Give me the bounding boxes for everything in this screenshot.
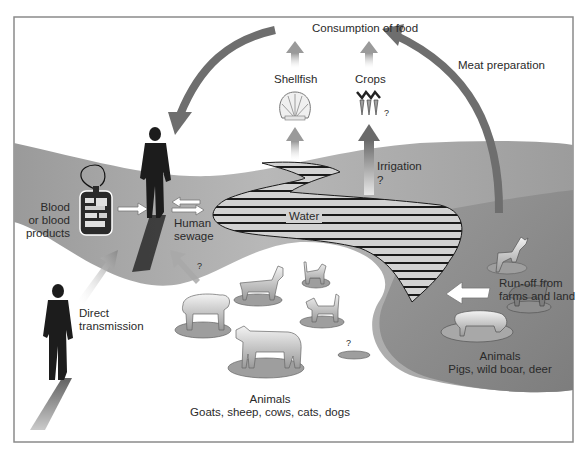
shellfish-label: Shellfish <box>274 73 317 86</box>
irrigation-label: Irrigation <box>377 160 422 173</box>
runoff-label-line2: farms and land <box>499 290 575 303</box>
crops-label: Crops <box>355 73 386 86</box>
animals-left-title: Animals <box>220 393 320 406</box>
irrigation-uncertain-mark: ? <box>377 174 383 187</box>
direct-transmission-line2: transmission <box>79 320 144 333</box>
shell-icon <box>280 92 311 120</box>
water-label: Water <box>286 210 322 223</box>
animals-left-members: Goats, sheep, cows, cats, dogs <box>190 406 350 419</box>
unknown-host-mark: ? <box>346 337 351 350</box>
animal-to-sewage-uncertain: ? <box>197 260 202 273</box>
crops-uncertain-mark: ? <box>384 107 389 120</box>
human-sewage-line1: Human <box>174 217 211 230</box>
blood-label-line2: or blood <box>22 214 70 227</box>
animals-right-title: Animals <box>450 350 550 363</box>
consumption-of-food-label: Consumption of food <box>312 22 418 35</box>
meat-preparation-label: Meat preparation <box>458 59 545 72</box>
human-sewage-line2: sewage <box>174 230 214 243</box>
runoff-label-line1: Run-off from <box>499 277 563 290</box>
animals-right-members: Pigs, wild boar, deer <box>430 363 570 376</box>
direct-transmission-line1: Direct <box>79 307 109 320</box>
blood-label-line1: Blood <box>22 201 70 214</box>
unknown-host-icon <box>338 351 370 359</box>
blood-label-line3: products <box>22 227 70 240</box>
